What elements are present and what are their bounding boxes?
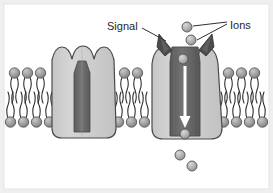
ion-external-1 (182, 22, 192, 32)
lipid-heads-outer-left (9, 68, 45, 78)
ion-cytosol-1 (175, 150, 185, 160)
ion-external-2 (186, 35, 196, 45)
ion-pore-2 (180, 129, 190, 139)
signal-label: Signal (107, 20, 138, 32)
ion-pore-1 (178, 54, 188, 64)
lipid-heads-outer-right (223, 68, 259, 78)
ion-channel-figure: Signal Ions (0, 0, 273, 193)
ion-channel-diagram: Signal Ions (0, 0, 273, 193)
ions-label: Ions (230, 19, 251, 31)
closed-channel[interactable] (52, 46, 116, 138)
ion-cytosol-2 (187, 161, 197, 171)
